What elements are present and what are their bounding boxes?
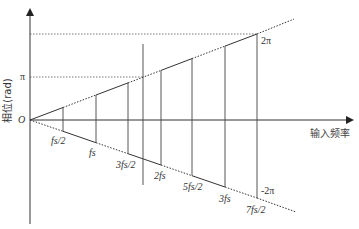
freq-label-3fs-half: 3fs/2 [116,160,135,170]
two-pi-label: 2π [261,36,271,46]
freq-label-fs-half: fs/2 [51,136,65,146]
diagram-canvas [0,0,359,229]
freq-label-7fs-half: 7fs/2 [246,205,265,215]
lower-phase-line [30,120,296,212]
y-axis-label: 相位(rad) [0,78,14,122]
x-axis-label: 输入频率 [310,125,350,140]
neg-two-pi-label: -2π [261,186,274,196]
freq-label-fs: fs [89,148,96,158]
freq-label-5fs-half: 5fs/2 [183,182,202,192]
freq-label-2fs: 2fs [154,171,166,181]
freq-label-3fs: 3fs [219,194,231,204]
origin-label: O [18,115,25,125]
pi-tick-label: π [20,72,25,82]
